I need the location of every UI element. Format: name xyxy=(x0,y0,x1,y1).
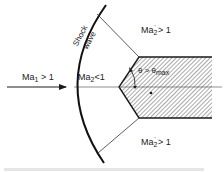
normal-shock-downstream-label: Ma2<1 xyxy=(78,73,105,83)
shock-wave-diagram: Ma1 > 1 Ma2<1 Ma2' > 1 Ma2' > 1 θ > θmax… xyxy=(0,0,224,172)
diagram-canvas xyxy=(0,0,224,172)
upstream-mach-label: Ma1 > 1 xyxy=(22,73,54,83)
lower-downstream-mach-label: Ma2' > 1 xyxy=(141,136,171,148)
lower-boundary-line xyxy=(98,118,139,153)
center-dot xyxy=(150,92,153,95)
upper-downstream-mach-label: Ma2' > 1 xyxy=(141,24,171,36)
angle-condition-label: θ > θmax xyxy=(138,67,169,76)
caption-fragment xyxy=(4,168,204,171)
upper-boundary-line xyxy=(97,14,139,57)
